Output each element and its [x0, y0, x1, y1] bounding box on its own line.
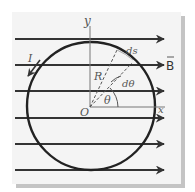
radius-label: R [93, 70, 102, 83]
dtheta-label: dθ [122, 78, 134, 89]
loop-diagram: y x O R I B ds θ dθ [0, 0, 195, 192]
dtheta-arc [111, 76, 121, 82]
x-axis-label: x [158, 104, 164, 115]
field-label: B [166, 59, 174, 73]
y-axis-label: y [83, 14, 91, 28]
ds-label: ds [126, 45, 138, 56]
origin-label: O [80, 106, 89, 119]
theta-label: θ [104, 94, 111, 107]
current-label: I [27, 52, 33, 65]
